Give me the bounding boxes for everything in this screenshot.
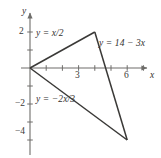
x-tick-label-6: 6 — [124, 71, 129, 81]
y-tick-label-minus-2: −2 — [15, 99, 25, 109]
x-tick-label-3: 3 — [75, 71, 80, 81]
y-tick-label-2: 2 — [19, 27, 24, 37]
math-figure-coordinate-plane: y = x/2 y = 14 − 3x y = −2x/3 3 6 2 −2 −… — [0, 0, 161, 158]
x-axis-label: x — [150, 71, 154, 81]
y-axis-label: y — [22, 7, 26, 17]
equation-label-upper-line: y = x/2 — [36, 29, 64, 39]
equation-label-lower-line: y = −2x/3 — [36, 95, 75, 105]
y-tick-label-minus-4: −4 — [15, 127, 25, 137]
equation-label-right-line: y = 14 − 3x — [99, 39, 145, 49]
